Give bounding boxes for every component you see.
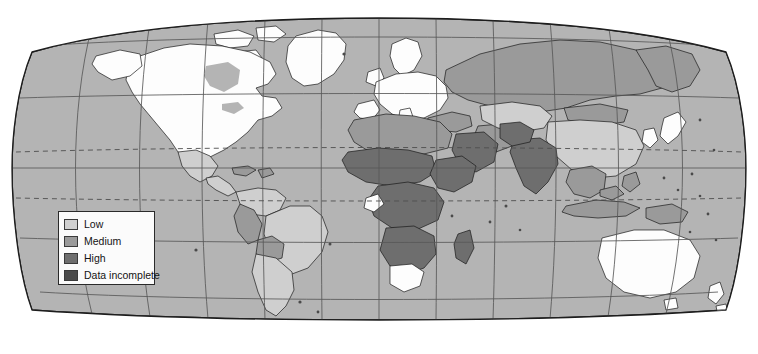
world-map-figure: Low Medium High Data incomplete [0,0,758,354]
legend-item-high: High [64,250,150,267]
legend-swatch-low [64,219,78,230]
legend-swatch-high [64,253,78,264]
legend-swatch-data-incomplete [64,270,78,281]
legend-item-data-incomplete: Data incomplete [64,267,150,284]
map-legend: Low Medium High Data incomplete [58,211,155,285]
legend-label-medium: Medium [84,236,121,247]
legend-swatch-medium [64,236,78,247]
legend-label-low: Low [84,219,103,230]
world-map-svg [0,0,758,354]
region-tasmania [664,298,678,310]
legend-label-high: High [84,253,106,264]
legend-item-low: Low [64,216,150,233]
legend-label-data-incomplete: Data incomplete [84,270,160,281]
legend-item-medium: Medium [64,233,150,250]
